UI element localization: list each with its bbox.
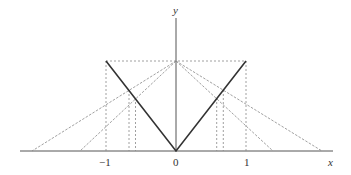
ray-right-inner bbox=[176, 61, 273, 151]
tick-label-neg1: −1 bbox=[99, 156, 111, 168]
apex-rays bbox=[32, 61, 322, 151]
y-axis-label: y bbox=[172, 4, 178, 16]
tick-label-0: 0 bbox=[173, 156, 179, 168]
tick-label-1: 1 bbox=[244, 156, 250, 168]
x-axis-label: x bbox=[327, 156, 333, 168]
ray-left-inner bbox=[80, 61, 176, 151]
abs-value-diagram: y x −1 0 1 bbox=[0, 0, 351, 175]
ray-right-outer bbox=[176, 61, 322, 151]
ray-left-outer bbox=[32, 61, 176, 151]
